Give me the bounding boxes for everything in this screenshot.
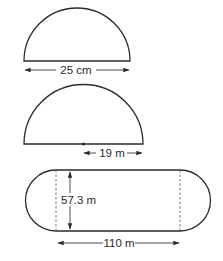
length-label: 110 m xyxy=(103,237,134,249)
radius-label: 19 m xyxy=(99,147,125,159)
geometry-diagram: 25 cm 19 m 57.3 m 110 m xyxy=(0,0,223,261)
semicircle-figure-1: 25 cm xyxy=(24,8,130,76)
semicircle-figure-2: 19 m xyxy=(24,85,143,159)
track-outline xyxy=(25,170,210,231)
diameter-label: 25 cm xyxy=(60,64,91,76)
running-track-figure: 57.3 m 110 m xyxy=(25,170,210,249)
center-point xyxy=(82,142,85,145)
width-label: 57.3 m xyxy=(61,194,96,206)
semicircle-outline xyxy=(24,8,130,61)
semicircle-outline xyxy=(24,85,143,144)
